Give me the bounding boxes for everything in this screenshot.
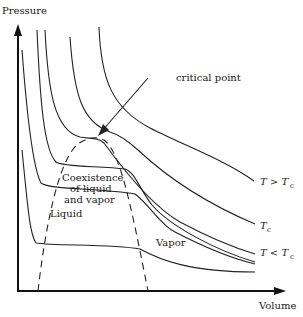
- isotherm-label-below: T < T c: [260, 247, 294, 261]
- critical-point-arrow-icon: [98, 124, 109, 136]
- critical-point-label: critical point: [176, 72, 241, 83]
- isotherm-critical: [45, 30, 255, 254]
- x-axis-arrow-icon: [274, 287, 286, 295]
- svg-text:c: c: [290, 182, 294, 190]
- y-axis-arrow-icon: [14, 24, 22, 36]
- x-axis-label: Volume: [258, 300, 296, 311]
- svg-text:T < T: T < T: [260, 247, 289, 258]
- coexistence-label-2: of liquid: [70, 183, 112, 194]
- svg-text:T > T: T > T: [260, 176, 289, 187]
- coexistence-label-3: and vapor: [64, 194, 115, 205]
- svg-text:c: c: [267, 226, 271, 234]
- vapor-label: Vapor: [155, 237, 186, 248]
- pv-diagram: Pressure Volume critical point Coexisten…: [0, 0, 303, 317]
- svg-text:c: c: [290, 253, 294, 261]
- liquid-label: Liquid: [50, 208, 83, 219]
- isotherm-below-critical-1: [37, 30, 255, 262]
- coexistence-label-1: Coexistence: [62, 172, 124, 183]
- y-axis-label: Pressure: [2, 5, 47, 16]
- isotherm-label-critical: T c: [260, 220, 271, 234]
- isotherm-label-above: T > T c: [260, 176, 294, 190]
- isotherm-above-critical: [99, 27, 254, 181]
